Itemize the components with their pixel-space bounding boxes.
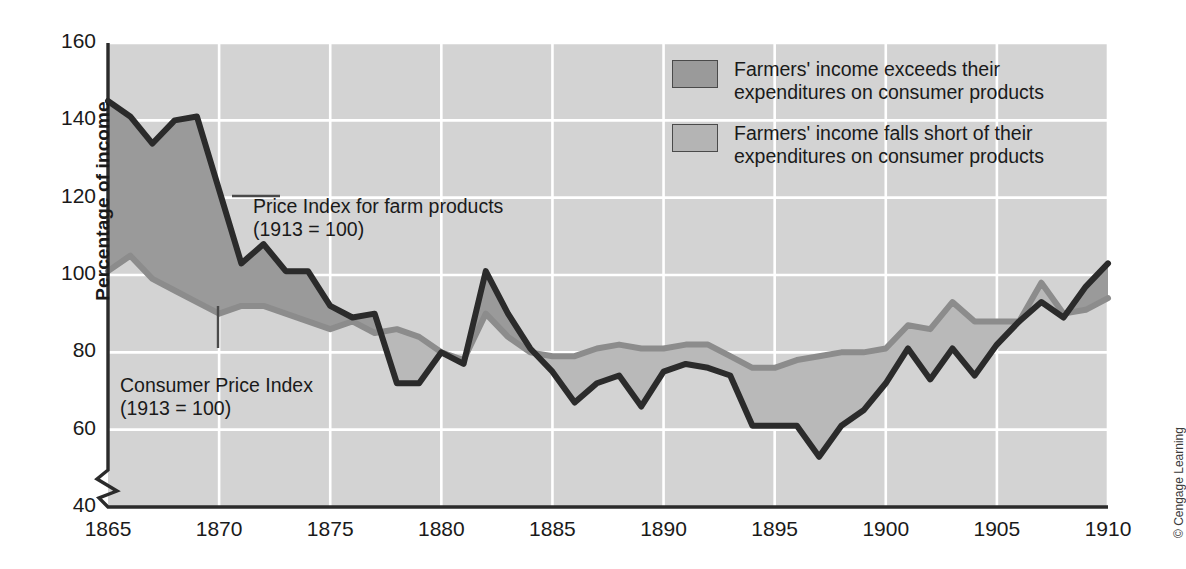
y-tick-label: 100 xyxy=(32,261,96,285)
annotation-farm-price-index-text: Price Index for farm products (1913 = 10… xyxy=(253,195,503,240)
x-tick-label: 1895 xyxy=(730,517,820,541)
x-tick-label: 1910 xyxy=(1063,517,1153,541)
copyright-credit: © Cengage Learning xyxy=(1172,388,1186,538)
x-tick-label: 1870 xyxy=(174,517,264,541)
annotation-consumer-price-index: Consumer Price Index (1913 = 100) xyxy=(120,351,313,420)
y-tick-label: 140 xyxy=(32,106,96,130)
annotation-farm-price-index: Price Index for farm products (1913 = 10… xyxy=(253,172,503,241)
x-tick-label: 1905 xyxy=(952,517,1042,541)
y-tick-label: 80 xyxy=(32,338,96,362)
x-tick-label: 1875 xyxy=(285,517,375,541)
legend-item-falls-short: Farmers' income falls short of their exp… xyxy=(672,122,1092,168)
x-tick-label: 1900 xyxy=(841,517,931,541)
x-tick-label: 1865 xyxy=(63,517,153,541)
x-tick-label: 1885 xyxy=(507,517,597,541)
legend-swatch-falls-short xyxy=(672,124,718,152)
y-tick-label: 40 xyxy=(32,493,96,517)
legend-item-exceeds: Farmers' income exceeds their expenditur… xyxy=(672,58,1092,104)
x-tick-label: 1890 xyxy=(619,517,709,541)
legend-swatch-exceeds xyxy=(672,60,718,88)
annotation-consumer-price-index-text: Consumer Price Index (1913 = 100) xyxy=(120,374,313,419)
y-tick-label: 160 xyxy=(32,29,96,53)
legend-label-falls-short: Farmers' income falls short of their exp… xyxy=(734,122,1044,168)
legend-label-exceeds: Farmers' income exceeds their expenditur… xyxy=(734,58,1044,104)
x-tick-label: 1880 xyxy=(396,517,486,541)
y-tick-label: 120 xyxy=(32,184,96,208)
y-tick-label: 60 xyxy=(32,416,96,440)
